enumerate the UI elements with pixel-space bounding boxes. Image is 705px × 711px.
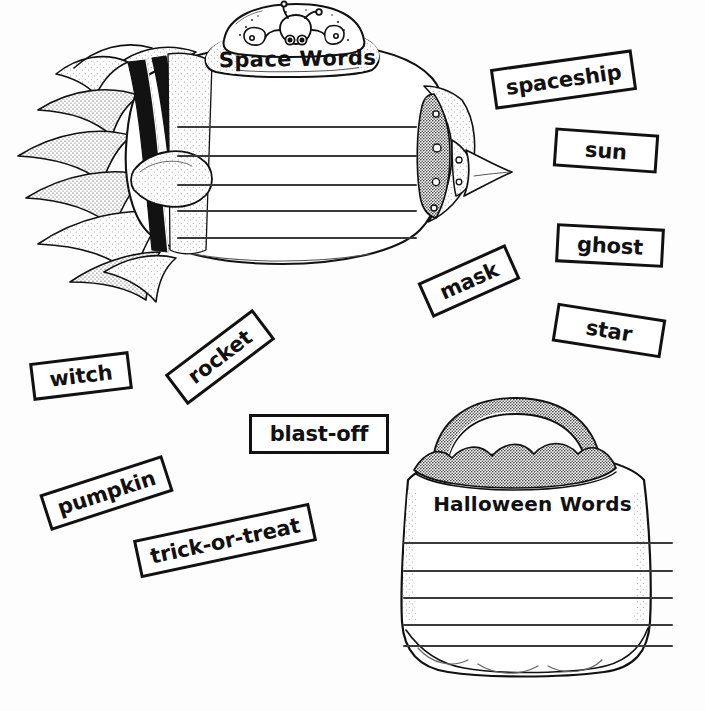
word-card-label: trick-or-treat xyxy=(148,513,302,568)
halloween-words-title: Halloween Words xyxy=(400,492,665,516)
word-card-label: sun xyxy=(584,137,627,164)
word-card-witch[interactable]: witch xyxy=(29,351,133,401)
word-card-label: witch xyxy=(48,360,114,392)
word-card-sun[interactable]: sun xyxy=(553,127,659,173)
word-card-label: rocket xyxy=(183,325,256,389)
word-card-star[interactable]: star xyxy=(552,303,667,359)
word-card-trick-or-treat[interactable]: trick-or-treat xyxy=(133,503,317,579)
word-card-label: mask xyxy=(436,257,502,304)
word-card-label: ghost xyxy=(576,232,643,259)
word-card-label: star xyxy=(584,315,633,346)
word-card-ghost[interactable]: ghost xyxy=(555,223,665,268)
word-card-label: blast-off xyxy=(270,422,369,446)
word-card-label: spaceship xyxy=(504,60,622,100)
word-card-spaceship[interactable]: spaceship xyxy=(490,49,637,110)
worksheet-page: Space Words xyxy=(0,0,705,711)
word-card-label: pumpkin xyxy=(54,466,158,520)
word-card-mask[interactable]: mask xyxy=(417,244,520,318)
word-card-pumpkin[interactable]: pumpkin xyxy=(39,455,173,531)
space-words-title: Space Words xyxy=(205,45,390,72)
word-card-rocket[interactable]: rocket xyxy=(165,309,276,406)
word-card-blast-off[interactable]: blast-off xyxy=(249,414,389,454)
